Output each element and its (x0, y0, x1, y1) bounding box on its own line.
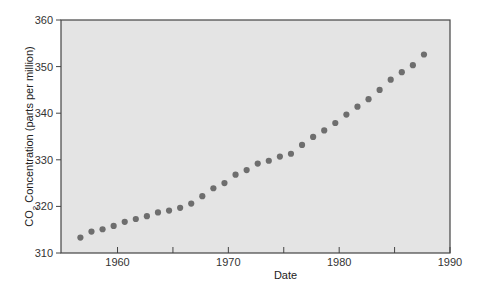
data-point (288, 151, 294, 157)
data-point (388, 77, 394, 83)
data-point (88, 228, 94, 234)
y-axis: 310320330340350360 (35, 14, 61, 259)
y-axis-title-post: Concentration (parts per million) (23, 46, 35, 206)
data-point (421, 51, 427, 57)
data-point (232, 172, 238, 178)
data-point (221, 180, 227, 186)
y-tick-label: 350 (35, 61, 53, 73)
data-point (321, 127, 327, 133)
data-point (166, 207, 172, 213)
data-point (133, 216, 139, 222)
plot-area (61, 20, 450, 253)
data-point (99, 226, 105, 232)
data-point (410, 62, 416, 68)
x-tick-label: 1990 (438, 256, 462, 268)
data-point (77, 235, 83, 241)
x-axis-title: Date (274, 269, 297, 281)
y-tick-label: 330 (35, 154, 53, 166)
co2-scatter-chart: 310320330340350360 1960197019801990 Date… (0, 0, 481, 301)
data-point (111, 223, 117, 229)
data-point (343, 111, 349, 117)
data-point (266, 158, 272, 164)
data-point (155, 209, 161, 215)
x-tick-label: 1980 (327, 256, 351, 268)
data-point (122, 219, 128, 225)
y-tick-label: 310 (35, 247, 53, 259)
data-point (199, 193, 205, 199)
data-point (377, 87, 383, 93)
data-point (365, 96, 371, 102)
data-point (210, 185, 216, 191)
x-tick-label: 1960 (105, 256, 129, 268)
data-point (144, 213, 150, 219)
data-point (277, 153, 283, 159)
data-point (310, 134, 316, 140)
data-point (354, 104, 360, 110)
data-point (299, 142, 305, 148)
y-tick-label: 360 (35, 14, 53, 26)
data-point (177, 205, 183, 211)
data-point (332, 120, 338, 126)
x-tick-label: 1970 (216, 256, 240, 268)
data-point (255, 160, 261, 166)
data-point (399, 69, 405, 75)
y-tick-label: 340 (35, 107, 53, 119)
y-axis-title-pre: CO (23, 210, 35, 227)
data-point (244, 167, 250, 173)
data-point (188, 201, 194, 207)
